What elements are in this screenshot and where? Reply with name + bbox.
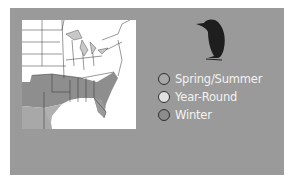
legend-label: Winter [175, 108, 212, 122]
us-range-map [22, 20, 136, 129]
legend-item-winter: Winter [158, 106, 262, 124]
legend: Spring/Summer Year-Round Winter [158, 70, 262, 124]
bird-silhouette-icon [194, 18, 230, 62]
map-graphic [22, 20, 136, 129]
legend-item-spring-summer: Spring/Summer [158, 70, 262, 88]
legend-label: Spring/Summer [175, 72, 262, 86]
legend-label: Year-Round [175, 90, 237, 104]
legend-item-year-round: Year-Round [158, 88, 262, 106]
spring-summer-swatch-icon [158, 73, 170, 85]
year-round-swatch-icon [158, 91, 170, 103]
winter-swatch-icon [158, 109, 170, 121]
